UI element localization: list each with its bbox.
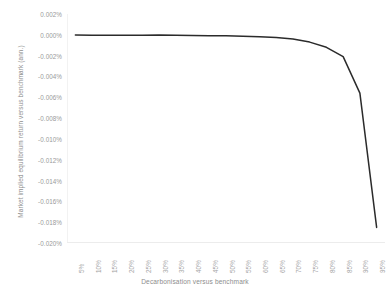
x-tick-label: 65% [279, 260, 286, 273]
x-tick-label: 5% [78, 264, 85, 273]
y-tick-label: -0.008% [38, 115, 62, 122]
x-tick-label: 30% [162, 260, 169, 273]
chart-container: Market implied equilibrium return versus… [0, 0, 390, 296]
x-tick-label: 15% [111, 260, 118, 273]
x-tick-label: 50% [229, 260, 236, 273]
x-axis-tick-labels: 5%10%15%20%25%30%35%40%45%50%55%60%65%70… [67, 245, 385, 277]
x-tick-label: 40% [195, 260, 202, 273]
y-tick-label: -0.002% [38, 52, 62, 59]
plot-area [67, 14, 385, 243]
y-tick-label: -0.006% [38, 94, 62, 101]
x-tick-label: 90% [362, 260, 369, 273]
y-tick-label: -0.012% [38, 156, 62, 163]
x-tick-label: 20% [128, 260, 135, 273]
x-tick-label: 45% [212, 260, 219, 273]
series-line-chart [67, 14, 385, 243]
x-tick-label: 25% [145, 260, 152, 273]
x-tick-label: 75% [312, 260, 319, 273]
y-tick-label: -0.004% [38, 73, 62, 80]
x-tick-label: 10% [95, 260, 102, 273]
y-tick-label: -0.010% [38, 135, 62, 142]
x-tick-label: 55% [245, 260, 252, 273]
x-tick-label: 85% [346, 260, 353, 273]
y-tick-label: -0.020% [38, 240, 62, 247]
y-tick-label: 0.000% [40, 31, 62, 38]
y-tick-label: 0.002% [40, 11, 62, 18]
y-tick-label: -0.018% [38, 219, 62, 226]
y-tick-label: -0.016% [38, 198, 62, 205]
x-tick-label: 35% [178, 260, 185, 273]
x-tick-label: 70% [295, 260, 302, 273]
x-axis-title: Decarbonisation versus benchmark [0, 278, 390, 285]
y-tick-label: -0.014% [38, 177, 62, 184]
y-axis-tick-labels: 0.002%0.000%-0.002%-0.004%-0.006%-0.008%… [0, 0, 66, 296]
x-tick-label: 60% [262, 260, 269, 273]
x-tick-label: 95% [379, 260, 386, 273]
x-tick-label: 80% [329, 260, 336, 273]
